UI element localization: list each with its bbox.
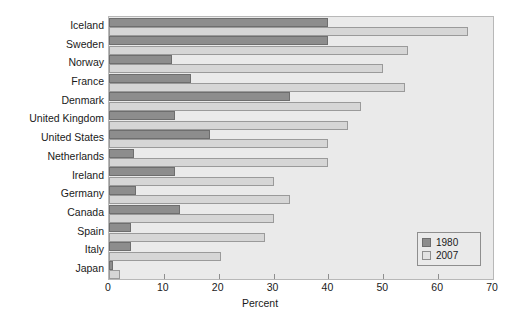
legend-label-2007: 2007 <box>436 251 458 261</box>
legend-item-1980: 1980 <box>422 236 476 249</box>
bar-1980-norway <box>109 55 172 64</box>
bar-1980-france <box>109 74 191 83</box>
x-tick-10 <box>164 274 165 279</box>
category-label-united-states: United States <box>4 132 104 142</box>
bar-1980-japan <box>109 261 113 270</box>
bar-2007-canada <box>109 214 274 223</box>
bar-2007-spain <box>109 233 265 242</box>
bar-1980-italy <box>109 242 131 251</box>
bar-1980-united-kingdom <box>109 111 175 120</box>
category-label-iceland: Iceland <box>4 20 104 30</box>
x-tick-20 <box>219 274 220 279</box>
category-label-netherlands: Netherlands <box>4 151 104 161</box>
bar-1980-canada <box>109 205 180 214</box>
x-tick-50 <box>383 274 384 279</box>
category-label-sweden: Sweden <box>4 39 104 49</box>
x-tick-40 <box>328 274 329 279</box>
bar-2007-norway <box>109 64 383 73</box>
bar-2007-sweden <box>109 46 408 55</box>
bar-2007-japan <box>109 270 120 279</box>
category-label-norway: Norway <box>4 57 104 67</box>
bar-2007-united-kingdom <box>109 121 348 130</box>
bar-2007-ireland <box>109 177 274 186</box>
x-tick-label-70: 70 <box>477 282 507 293</box>
legend-swatch-1980 <box>422 238 431 247</box>
bar-2007-france <box>109 83 405 92</box>
category-label-ireland: Ireland <box>4 170 104 180</box>
bar-1980-denmark <box>109 92 290 101</box>
chart-figure: IcelandSwedenNorwayFranceDenmarkUnited K… <box>0 0 525 323</box>
legend-label-1980: 1980 <box>436 238 458 248</box>
x-tick-label-40: 40 <box>312 282 342 293</box>
x-tick-label-0: 0 <box>93 282 123 293</box>
category-label-united-kingdom: United Kingdom <box>4 113 104 123</box>
category-label-germany: Germany <box>4 188 104 198</box>
x-tick-label-60: 60 <box>422 282 452 293</box>
x-axis-title-text: Percent <box>242 297 278 309</box>
category-label-canada: Canada <box>4 207 104 217</box>
legend-item-2007: 2007 <box>422 249 476 262</box>
x-tick-30 <box>274 274 275 279</box>
category-label-spain: Spain <box>4 226 104 236</box>
bar-2007-italy <box>109 252 221 261</box>
bar-2007-netherlands <box>109 158 328 167</box>
category-label-france: France <box>4 76 104 86</box>
x-tick-label-20: 20 <box>203 282 233 293</box>
bar-1980-united-states <box>109 130 210 139</box>
bar-2007-united-states <box>109 139 328 148</box>
bar-1980-spain <box>109 223 131 232</box>
bar-1980-sweden <box>109 36 328 45</box>
chart-legend: 1980 2007 <box>417 232 481 266</box>
category-label-denmark: Denmark <box>4 95 104 105</box>
bar-1980-iceland <box>109 18 328 27</box>
bar-2007-iceland <box>109 27 468 36</box>
category-label-japan: Japan <box>4 263 104 273</box>
x-tick-label-30: 30 <box>258 282 288 293</box>
bar-2007-denmark <box>109 102 361 111</box>
bar-1980-ireland <box>109 167 175 176</box>
x-tick-label-50: 50 <box>367 282 397 293</box>
bar-2007-germany <box>109 195 290 204</box>
legend-swatch-2007 <box>422 251 431 260</box>
bar-1980-netherlands <box>109 149 134 158</box>
category-label-italy: Italy <box>4 244 104 254</box>
bar-1980-germany <box>109 186 136 195</box>
x-axis-title: Percent <box>108 297 492 309</box>
x-tick-label-10: 10 <box>148 282 178 293</box>
x-tick-60 <box>438 274 439 279</box>
